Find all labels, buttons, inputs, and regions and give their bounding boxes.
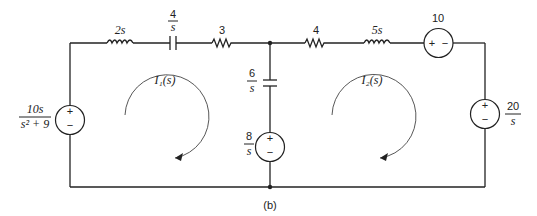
source-mid-num: 8: [246, 130, 252, 142]
minus-sign: −: [67, 119, 73, 131]
plus-sign: +: [482, 99, 488, 111]
resistor-4: 4: [305, 24, 327, 47]
source-mid-den: s: [247, 144, 252, 158]
voltage-source-right: + − 20 s: [471, 99, 522, 129]
inductor-5s-label: 5s: [372, 23, 383, 37]
source-left-num: 10s: [27, 102, 44, 116]
capacitor-mid-num: 6: [249, 67, 255, 79]
wires: [70, 41, 485, 189]
minus-sign: −: [482, 113, 488, 125]
inductor-2s-label: 2s: [115, 23, 126, 37]
circuit-diagram: 2s 4 s 3 4 5s + − 10 + − 10s s² + 9: [0, 0, 537, 216]
source-right-num: 20: [507, 100, 519, 112]
capacitor-1-den: s: [171, 20, 176, 34]
capacitor-6-over-s: 6 s: [247, 67, 277, 95]
loop-i2-label: I₂(s): [361, 73, 383, 87]
capacitor-1-num: 4: [170, 8, 176, 20]
loop-current-i2: I₂(s): [332, 73, 416, 161]
arrowhead-icon: [380, 153, 388, 161]
minus-sign: −: [442, 37, 448, 49]
plus-sign: +: [429, 37, 435, 49]
loop-current-i1: I₁(s): [125, 73, 209, 161]
resistor-4-label: 4: [313, 24, 319, 36]
voltage-source-10: + − 10: [424, 12, 453, 58]
node-bottom: [268, 185, 272, 189]
resistor-3-label: 3: [219, 24, 225, 36]
node-top: [268, 41, 272, 45]
capacitor-mid-den: s: [250, 81, 255, 95]
plus-sign: +: [67, 105, 73, 117]
inductor-5s: 5s: [364, 23, 390, 43]
source-right-den: s: [511, 114, 516, 128]
voltage-source-mid: + − 8 s: [244, 130, 285, 162]
arrowhead-icon: [175, 153, 183, 161]
source-left-den: s² + 9: [21, 117, 49, 131]
minus-sign: −: [267, 146, 273, 158]
voltage-source-left: + − 10s s² + 9: [19, 102, 85, 135]
loop-i1-label: I₁(s): [154, 73, 176, 87]
inductor-2s: 2s: [107, 23, 133, 43]
figure-caption: (b): [263, 199, 276, 211]
plus-sign: +: [267, 132, 273, 144]
capacitor-4-over-s: 4 s: [168, 8, 178, 50]
resistor-3: 3: [212, 24, 234, 47]
source-top-label: 10: [432, 12, 444, 24]
